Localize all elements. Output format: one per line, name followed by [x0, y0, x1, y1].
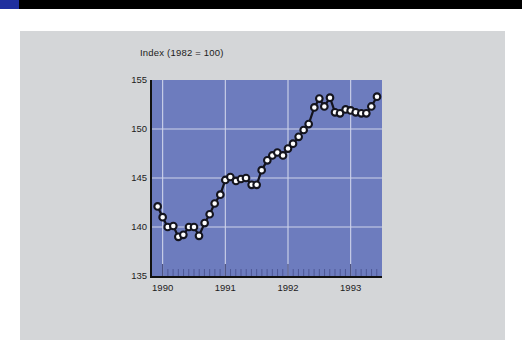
y-tick-label: 140: [119, 221, 147, 232]
data-point-marker: [280, 152, 287, 159]
x-tick-label: 1991: [205, 282, 245, 293]
x-tick-label: 1993: [331, 282, 371, 293]
data-point-marker: [170, 223, 177, 230]
data-point-marker: [211, 200, 218, 207]
data-point-marker: [191, 224, 198, 231]
data-point-marker: [295, 134, 302, 141]
data-point-marker: [217, 191, 224, 198]
data-point-marker: [243, 175, 250, 182]
y-axis-line: [150, 80, 152, 278]
x-tick-label: 1990: [143, 282, 183, 293]
data-point-marker: [321, 103, 328, 110]
data-point-marker: [201, 220, 208, 227]
data-point-marker: [305, 121, 312, 128]
chart-title: Index (1982 = 100): [140, 47, 224, 58]
data-point-marker: [363, 110, 370, 117]
figure-card: Index (1982 = 100) 135140145150155 19901…: [20, 31, 505, 340]
x-tick-label: 1992: [268, 282, 308, 293]
data-point-marker: [316, 95, 323, 102]
plot-svg: [152, 80, 382, 276]
chart-container: Index (1982 = 100) 135140145150155 19901…: [20, 31, 505, 340]
data-point-marker: [180, 232, 187, 239]
data-point-marker: [368, 103, 375, 110]
x-axis-line: [152, 276, 382, 278]
top-black-bar: [0, 0, 522, 9]
y-tick-label: 150: [119, 123, 147, 134]
data-point-marker: [311, 104, 318, 111]
data-point-marker: [374, 93, 381, 100]
plot-area: [152, 80, 382, 276]
data-point-marker: [253, 182, 260, 189]
series-line: [158, 97, 377, 237]
data-point-marker: [300, 127, 307, 134]
y-tick-label: 145: [119, 172, 147, 183]
top-bar-blue-accent: [0, 0, 19, 9]
data-point-marker: [206, 211, 213, 218]
data-point-marker: [327, 94, 334, 101]
y-tick-label: 135: [119, 270, 147, 281]
data-point-marker: [258, 167, 265, 174]
data-point-marker: [154, 203, 161, 210]
data-point-marker: [159, 214, 166, 221]
y-tick-label: 155: [119, 74, 147, 85]
data-point-marker: [196, 233, 203, 240]
data-point-marker: [290, 140, 297, 147]
